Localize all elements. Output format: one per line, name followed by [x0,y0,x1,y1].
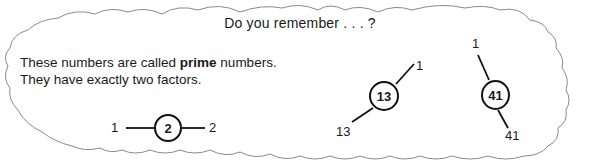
prime-circle-2: 2 [154,114,182,142]
factor-label-41: 41 [505,128,519,143]
factor-label-2: 2 [209,120,216,135]
factor-label-1: 1 [111,120,118,135]
factor-label-1: 1 [472,36,479,51]
factor-label-1: 1 [416,58,423,73]
prime-circle-41: 41 [481,80,510,110]
factor-label-13: 13 [336,124,350,139]
prime-circle-13: 13 [369,81,399,111]
